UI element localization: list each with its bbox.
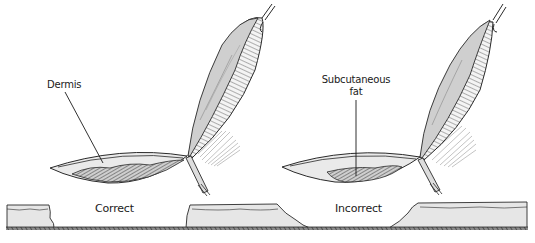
forceps-right xyxy=(493,4,506,32)
tissue-block-3 xyxy=(389,202,527,228)
dermis-label: Dermis xyxy=(47,80,81,90)
caption-correct: Correct xyxy=(95,203,134,214)
fascia-baseline xyxy=(6,227,528,230)
dermis-leader-line xyxy=(65,92,103,163)
tissue-block-1 xyxy=(7,205,54,228)
correct-panel xyxy=(50,4,275,196)
caption-incorrect: Incorrect xyxy=(335,203,382,214)
skin-flap-left xyxy=(188,18,263,159)
scalpel-right xyxy=(418,158,442,195)
elliptical-excision-right xyxy=(282,153,420,183)
caption-correct-text: Correct xyxy=(95,202,134,215)
elliptical-excision-left xyxy=(50,152,187,183)
subcutaneous-fat-label-line2: fat xyxy=(316,87,396,97)
tissue-block-2 xyxy=(186,204,310,228)
surgical-diagram xyxy=(0,0,535,243)
dermis-label-text: Dermis xyxy=(47,79,81,90)
caption-incorrect-text: Incorrect xyxy=(335,202,382,215)
incorrect-panel xyxy=(282,4,506,195)
subcutaneous-fat-label: Subcutaneous fat xyxy=(316,75,396,97)
subcutaneous-fat-label-line1: Subcutaneous xyxy=(316,75,396,85)
skin-flap-right xyxy=(420,20,493,160)
cross-section-strip xyxy=(6,202,528,230)
